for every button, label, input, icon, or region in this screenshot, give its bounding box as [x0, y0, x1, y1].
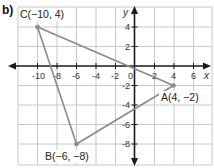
- point-b: [74, 142, 79, 147]
- x-axis-label: x: [203, 70, 210, 81]
- part-label: b): [2, 3, 13, 17]
- y-tick-labels: 4 2 -2 -4 -6 -8: [122, 22, 130, 149]
- y-tick-label: -2: [122, 81, 130, 91]
- y-tick-label: 2: [125, 42, 130, 52]
- x-tick-label: -6: [72, 71, 80, 81]
- coordinate-plane: -10 -8 -6 -4 -2 0 2 4 6 4 2 -2 -4 -6 -8 …: [0, 0, 214, 168]
- point-c-label: C(−10, 4): [20, 8, 64, 20]
- y-tick-label: -6: [122, 120, 130, 130]
- x-tick-label: -4: [92, 71, 100, 81]
- point-c: [35, 25, 40, 30]
- x-axis: [8, 63, 211, 70]
- x-tick-label: -2: [111, 71, 119, 81]
- x-tick-label: 6: [191, 71, 196, 81]
- x-tick-label: -10: [32, 71, 45, 81]
- point-a-label: A(4, −2): [161, 91, 199, 103]
- origin-label: 0: [128, 71, 133, 81]
- y-tick-label: 4: [125, 22, 130, 32]
- point-a: [171, 83, 176, 88]
- point-b-label: B(−6, −8): [45, 150, 89, 162]
- x-axis-left-arrow-icon: [8, 63, 16, 70]
- y-tick-label: -4: [122, 100, 130, 110]
- x-tick-labels: -10 -8 -6 -4 -2 0 2 4 6: [32, 71, 196, 81]
- x-tick-label: 4: [171, 71, 176, 81]
- y-axis-label: y: [122, 7, 129, 18]
- coordinate-diagram: b): [0, 0, 214, 168]
- y-tick-label: -8: [122, 139, 130, 149]
- x-axis-right-arrow-icon: [203, 63, 211, 70]
